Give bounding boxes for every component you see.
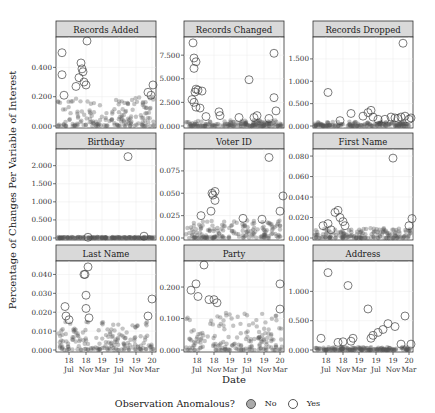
- x-tick-year: 19: [388, 356, 398, 365]
- strip-title: Voter ID: [215, 137, 252, 147]
- legend-title: Observation Anomalous?: [115, 398, 235, 409]
- plot-area: [313, 149, 413, 240]
- x-tick-year: 18: [192, 356, 202, 365]
- x-tick-month: Mar: [351, 365, 367, 374]
- x-tick-year: 18: [321, 356, 331, 365]
- y-tick-label: 0.000: [31, 346, 52, 355]
- x-tick-year: 20: [404, 356, 414, 365]
- facet-panel: Records Dropped0.0000.5001.0001.500: [288, 21, 415, 131]
- x-tick-month: Mar: [144, 365, 160, 374]
- x-tick-month: Jul: [191, 365, 203, 374]
- facet-panel: First Name0.0000.0200.0400.0600.080: [288, 133, 416, 243]
- strip-title: Records Added: [73, 25, 139, 35]
- x-tick-year: 19: [97, 356, 107, 365]
- y-tick-label: 1.000: [288, 287, 309, 296]
- y-tick-label: 0.040: [31, 270, 52, 279]
- y-tick-label: 2.000: [31, 161, 52, 170]
- y-tick-label: 0.500: [288, 99, 309, 108]
- x-tick-year: 18: [81, 356, 91, 365]
- y-tick-label: 0.075: [159, 166, 180, 175]
- x-tick-month: Jul: [113, 365, 125, 374]
- y-tick-label: 0.500: [31, 215, 52, 224]
- y-tick-label: 0.060: [288, 172, 309, 181]
- x-tick-year: 19: [371, 356, 381, 365]
- y-tick-label: 0.000: [288, 346, 309, 355]
- x-tick-year: 18: [64, 356, 74, 365]
- x-tick-month: Mar: [222, 365, 238, 374]
- facet-panel: Party0.0000.1000.20018Jul18Nov19Mar19Jul…: [159, 245, 288, 374]
- x-tick-month: Jul: [63, 365, 75, 374]
- faceted-scatter-chart: Records Added0.0000.2000.400Records Chan…: [0, 0, 435, 413]
- facet-panel: Last Name0.0000.0100.0200.0300.04018Jul1…: [31, 245, 160, 374]
- y-tick-label: 5.000: [159, 74, 180, 83]
- y-tick-label: 0.200: [31, 92, 52, 101]
- y-tick-label: 1.000: [288, 77, 309, 86]
- y-tick-label: 0.000: [288, 234, 309, 243]
- x-tick-year: 19: [114, 356, 124, 365]
- y-tick-label: 0.000: [159, 234, 180, 243]
- x-tick-month: Jul: [241, 365, 253, 374]
- x-tick-year: 19: [225, 356, 235, 365]
- x-tick-year: 19: [259, 356, 269, 365]
- x-tick-month: Mar: [272, 365, 288, 374]
- y-tick-label: 0.000: [288, 122, 309, 131]
- y-tick-label: 2.500: [159, 98, 180, 107]
- facet-panel: Address0.0000.5001.00018Jul18Nov19Mar19J…: [288, 245, 417, 374]
- x-tick-year: 18: [338, 356, 348, 365]
- y-tick-label: 0.080: [288, 152, 309, 161]
- facet-panel: Voter ID0.0000.0250.0500.075: [159, 133, 287, 243]
- x-tick-month: Nov: [257, 365, 273, 374]
- strip-title: Address: [345, 249, 381, 259]
- x-tick-year: 19: [354, 356, 364, 365]
- y-tick-label: 0.500: [288, 316, 309, 325]
- legend-no-label: No: [265, 399, 277, 408]
- y-tick-label: 0.000: [159, 346, 180, 355]
- strip-title: Records Dropped: [325, 25, 401, 35]
- strip-title: Party: [223, 249, 246, 259]
- x-tick-month: Mar: [94, 365, 110, 374]
- x-tick-month: Nov: [336, 365, 352, 374]
- y-tick-label: 0.000: [31, 122, 52, 131]
- x-axis-title: Date: [222, 374, 246, 385]
- y-tick-label: 0.020: [31, 308, 52, 317]
- y-tick-label: 7.500: [159, 51, 180, 60]
- legend-no-circle-icon: [246, 399, 256, 409]
- legend: Observation Anomalous? No Yes: [0, 397, 435, 409]
- plot-area: [313, 261, 413, 352]
- x-tick-year: 18: [209, 356, 219, 365]
- legend-yes-label: Yes: [307, 399, 320, 408]
- y-tick-label: 0.025: [159, 211, 180, 220]
- y-tick-label: 0.010: [31, 327, 52, 336]
- strip-title: Birthday: [87, 137, 124, 147]
- y-tick-label: 0.030: [31, 289, 52, 298]
- x-tick-month: Jul: [370, 365, 382, 374]
- x-tick-month: Nov: [386, 365, 402, 374]
- y-tick-label: 0.100: [159, 314, 180, 323]
- y-axis-title: Percentage of Changes Per Variable of In…: [7, 71, 18, 310]
- legend-yes-circle-icon: [288, 399, 298, 409]
- x-tick-month: Nov: [79, 365, 95, 374]
- facet-panel: Birthday0.0000.5001.0001.5002.000: [31, 133, 156, 243]
- x-tick-month: Nov: [129, 365, 145, 374]
- y-tick-label: 1.500: [31, 179, 52, 188]
- x-tick-year: 20: [275, 356, 285, 365]
- y-tick-label: 1.000: [31, 197, 52, 206]
- x-tick-year: 20: [147, 356, 157, 365]
- plot-area: [56, 149, 156, 240]
- y-tick-label: 0.400: [31, 63, 52, 72]
- y-tick-label: 0.040: [288, 193, 309, 202]
- y-tick-label: 0.050: [159, 189, 180, 198]
- x-tick-month: Jul: [320, 365, 332, 374]
- y-tick-label: 1.500: [288, 54, 309, 63]
- strip-title: Last Name: [83, 249, 130, 259]
- x-tick-month: Nov: [207, 365, 223, 374]
- x-tick-year: 19: [242, 356, 252, 365]
- facet-panel: Records Changed0.0002.5005.0007.500: [159, 21, 284, 131]
- y-tick-label: 0.000: [159, 122, 180, 131]
- facet-panel: Records Added0.0000.2000.400: [31, 21, 157, 131]
- y-tick-label: 0.020: [288, 213, 309, 222]
- x-tick-year: 19: [131, 356, 141, 365]
- y-tick-label: 0.000: [31, 234, 52, 243]
- strip-title: Records Changed: [196, 25, 273, 35]
- y-tick-label: 0.200: [159, 283, 180, 292]
